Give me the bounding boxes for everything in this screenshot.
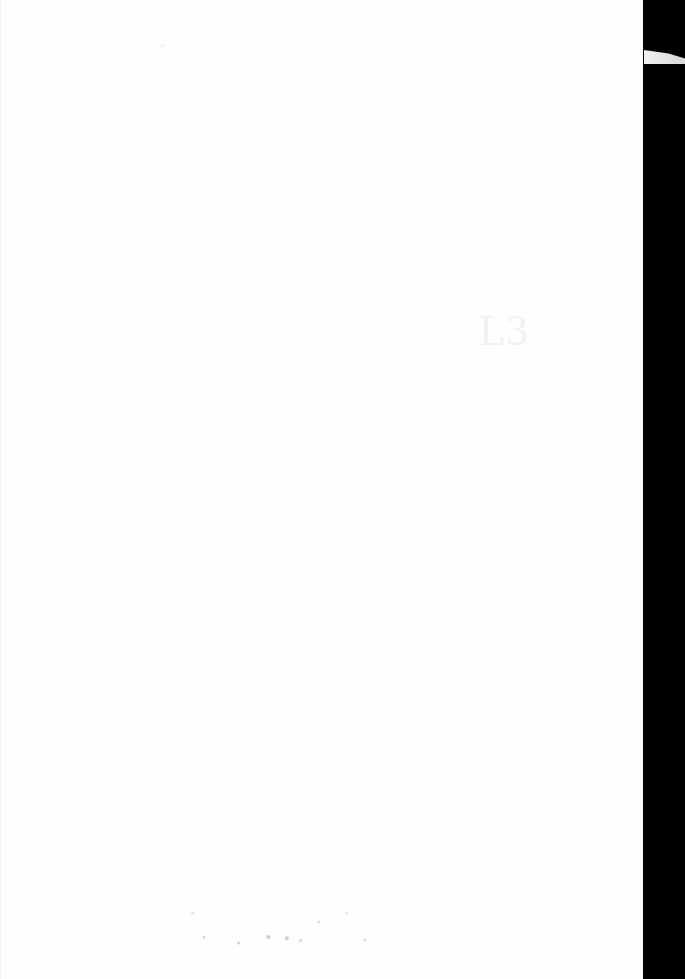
scan-speckle-noise: [181, 895, 411, 955]
scanned-page: · · · · L3: [0, 0, 644, 979]
bleed-through-header: · · · ·: [259, 85, 309, 101]
scanner-border: [643, 0, 685, 979]
bleed-through-glyph: L3: [479, 305, 528, 356]
scan-artifact-mark: [161, 44, 165, 47]
